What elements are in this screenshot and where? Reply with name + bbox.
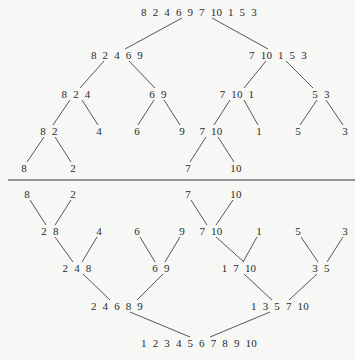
split-edge (300, 100, 317, 125)
split-node: 9 (179, 125, 185, 137)
merge-edge (244, 274, 272, 300)
split-node: 10 (230, 162, 241, 174)
split-edge (82, 100, 98, 125)
merge-node: 2 4 8 (63, 262, 92, 274)
merge-node: 7 (185, 188, 191, 200)
split-node: 1 (256, 125, 262, 137)
merge-node: 2 8 (41, 225, 58, 237)
split-edge (129, 61, 155, 88)
merge-edge (130, 312, 190, 337)
split-edge (212, 18, 268, 49)
split-node: 7 10 1 (220, 88, 255, 100)
split-edge (244, 61, 266, 88)
merge-node: 3 (342, 225, 348, 237)
split-edge (125, 18, 182, 49)
merge-edge (83, 274, 110, 300)
merge-node: 5 (295, 225, 301, 237)
merge-node: 6 9 (152, 262, 169, 274)
split-node: 7 10 (200, 125, 223, 137)
split-node: 8 2 4 6 9 7 10 1 5 3 (141, 6, 257, 18)
split-node: 7 10 1 5 3 (249, 49, 307, 61)
merge-edge (289, 274, 317, 300)
merge-node: 2 (70, 188, 76, 200)
merge-node: 1 7 10 (222, 262, 257, 274)
merge-node: 8 (24, 188, 30, 200)
merge-node: 9 (179, 225, 185, 237)
split-node: 2 (70, 162, 76, 174)
split-edge (286, 61, 313, 88)
split-edge (55, 137, 71, 162)
merge-edge (301, 237, 318, 262)
split-node: 3 (342, 125, 348, 137)
merge-node: 10 (230, 188, 241, 200)
merge-sort-diagram: 8 2 4 6 9 7 10 1 5 38 2 4 6 97 10 1 5 38… (0, 0, 355, 360)
merge-edge (30, 200, 46, 225)
split-edge (214, 100, 230, 125)
split-edge (326, 100, 343, 125)
merge-edge (55, 200, 71, 225)
split-edge (244, 100, 258, 125)
merge-node: 3 5 (312, 262, 329, 274)
split-node: 8 (21, 162, 27, 174)
split-edge (190, 137, 206, 162)
split-node: 5 (295, 125, 301, 137)
merge-edge (55, 237, 73, 262)
split-edge (164, 100, 180, 125)
split-edge (27, 137, 44, 162)
merge-node: 7 10 (200, 225, 223, 237)
split-node: 6 (134, 125, 140, 137)
merge-node: 1 3 5 7 10 (251, 300, 309, 312)
split-edge (80, 61, 104, 88)
split-edge (53, 100, 70, 125)
merge-node: 2 4 6 8 9 (91, 300, 143, 312)
split-node: 5 3 (312, 88, 329, 100)
merge-edge (243, 237, 257, 262)
split-node: 7 (185, 162, 191, 174)
merge-node: 1 (256, 225, 262, 237)
merge-node: 4 (96, 225, 102, 237)
split-node: 4 (96, 125, 102, 137)
merge-edge (165, 237, 180, 262)
split-node: 6 9 (149, 88, 166, 100)
split-edge (218, 137, 234, 162)
split-edge (138, 100, 154, 125)
merge-edge (216, 237, 244, 262)
merge-node: 6 (134, 225, 140, 237)
merge-node: 1 2 3 4 5 6 7 8 9 10 (141, 337, 257, 349)
merge-edge (191, 200, 207, 225)
merge-edge (327, 237, 343, 262)
merge-edge (216, 200, 233, 225)
split-node: 8 2 4 (62, 88, 91, 100)
merge-edge (140, 237, 155, 262)
merge-edge (137, 274, 163, 300)
merge-edge (82, 237, 97, 262)
merge-edge (210, 312, 270, 337)
split-node: 8 2 (40, 125, 57, 137)
split-node: 8 2 4 6 9 (91, 49, 143, 61)
